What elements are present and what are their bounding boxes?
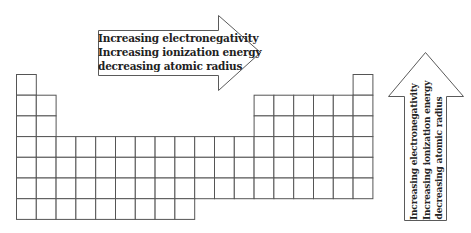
table-cell-r5-c4 [76,157,96,178]
table-cell-r3-c14 [274,116,294,137]
table-cell-r3-c13 [254,116,274,137]
table-cell-r5-c2 [36,157,56,178]
table-cell-r6-c12 [234,178,254,199]
table-cell-r4-c11 [215,137,235,158]
table-cell-r7-c3 [56,199,76,220]
table-cell-r5-c7 [135,157,155,178]
table-cell-r2-c15 [294,95,314,116]
table-cell-r6-c17 [333,178,353,199]
table-cell-r7-c6 [116,199,136,220]
table-cell-r5-c6 [116,157,136,178]
table-cell-r6-c7 [135,178,155,199]
table-cell-r4-c15 [294,137,314,158]
table-cell-r6-c10 [195,178,215,199]
table-cell-r1-c18 [353,75,373,96]
table-cell-r5-c18 [353,157,373,178]
table-cell-r4-c12 [234,137,254,158]
table-cell-r6-c2 [36,178,56,199]
table-cell-r4-c6 [116,137,136,158]
table-cell-r6-c11 [215,178,235,199]
table-cell-r4-c14 [274,137,294,158]
table-cell-r6-c18 [353,178,373,199]
table-cell-r3-c18 [353,116,373,137]
vertical-trend-label: Increasing electronegativity Increasing … [405,96,446,220]
table-cell-r4-c16 [314,137,334,158]
table-cell-r4-c18 [353,137,373,158]
table-cell-r4-c3 [56,137,76,158]
table-cell-r6-c3 [56,178,76,199]
table-cell-r6-c15 [294,178,314,199]
table-cell-r2-c2 [36,95,56,116]
table-cell-r2-c16 [314,95,334,116]
trend-line-atomic-radius: decreasing atomic radius [432,96,445,220]
table-cell-r2-c18 [353,95,373,116]
trend-line-ionization-energy: Increasing ionization energy [98,45,220,59]
table-cell-r6-c1 [17,178,37,199]
table-cell-r3-c2 [36,116,56,137]
table-cell-r3-c17 [333,116,353,137]
table-cell-r4-c17 [333,137,353,158]
table-cell-r5-c3 [56,157,76,178]
table-cell-r2-c1 [17,95,37,116]
table-cell-r2-c13 [254,95,274,116]
table-cell-r6-c9 [175,178,195,199]
trend-line-atomic-radius: decreasing atomic radius [98,59,220,73]
table-cell-r4-c5 [96,137,116,158]
table-cell-r7-c1 [17,199,37,220]
table-cell-r5-c14 [274,157,294,178]
table-cell-r2-c17 [333,95,353,116]
table-cell-r3-c15 [294,116,314,137]
table-cell-r7-c4 [76,199,96,220]
table-cell-r5-c17 [333,157,353,178]
table-cell-r5-c5 [96,157,116,178]
table-cell-r7-c9 [175,199,195,220]
table-cell-r1-c1 [17,75,37,96]
table-cell-r4-c9 [175,137,195,158]
trend-line-electronegativity: Increasing electronegativity [407,96,420,220]
table-cell-r6-c13 [254,178,274,199]
periodic-table-grid [17,75,373,220]
table-cell-r2-c14 [274,95,294,116]
table-cell-r6-c6 [116,178,136,199]
table-cell-r6-c16 [314,178,334,199]
table-cell-r4-c4 [76,137,96,158]
table-cell-r5-c1 [17,157,37,178]
table-cell-r3-c16 [314,116,334,137]
table-cell-r5-c16 [314,157,334,178]
table-cell-r6-c4 [76,178,96,199]
table-cell-r7-c8 [155,199,175,220]
table-cell-r4-c2 [36,137,56,158]
table-cell-r5-c13 [254,157,274,178]
table-cell-r6-c5 [96,178,116,199]
horizontal-trend-label: Increasing electronegativity Increasing … [98,31,220,75]
table-cell-r4-c7 [135,137,155,158]
table-cell-r4-c1 [17,137,37,158]
table-cell-r4-c10 [195,137,215,158]
trend-line-ionization-energy: Increasing ionization energy [420,96,433,220]
table-cell-r6-c8 [155,178,175,199]
table-cell-r7-c2 [36,199,56,220]
table-cell-r5-c9 [175,157,195,178]
trend-line-electronegativity: Increasing electronegativity [98,31,220,45]
table-cell-r3-c1 [17,116,37,137]
table-cell-r5-c8 [155,157,175,178]
table-cell-r5-c11 [215,157,235,178]
table-cell-r4-c8 [155,137,175,158]
table-cell-r5-c10 [195,157,215,178]
table-cell-r4-c13 [254,137,274,158]
table-cell-r5-c12 [234,157,254,178]
table-cell-r6-c14 [274,178,294,199]
table-cell-r7-c7 [135,199,155,220]
table-cell-r5-c15 [294,157,314,178]
periodic-trends-diagram: Increasing electronegativity Increasing … [0,0,471,233]
table-cell-r7-c5 [96,199,116,220]
